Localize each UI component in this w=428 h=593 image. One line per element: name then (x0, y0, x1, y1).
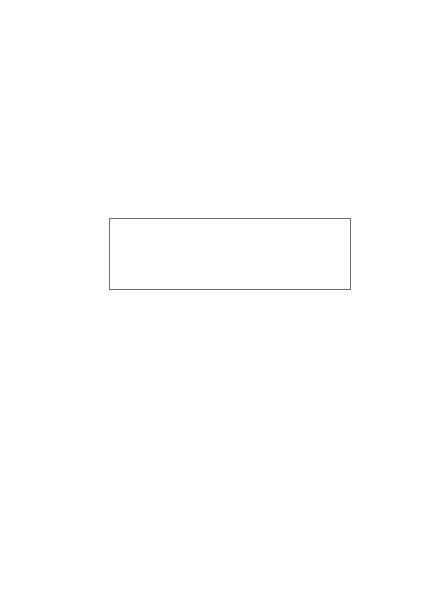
figure-root (0, 0, 428, 593)
legend-non-famine (109, 218, 351, 290)
chart-panel-famine (0, 300, 428, 593)
plot-area-famine (0, 300, 428, 530)
plot-area-non-famine (0, 0, 428, 215)
chart-panel-non-famine (0, 0, 428, 300)
